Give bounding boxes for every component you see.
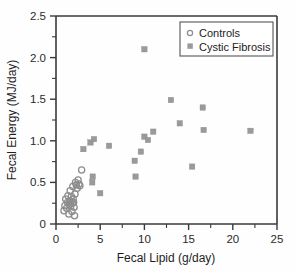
y-axis: 0 0.5 1.0 1.5 2.0 2.5 Fecal Energy (MJ/d… — [5, 10, 56, 230]
data-point — [142, 47, 147, 52]
data-point — [201, 127, 206, 132]
legend-label-cystic-fibrosis: Cystic Fibrosis — [199, 41, 271, 53]
data-point — [133, 174, 138, 179]
legend-label-controls: Controls — [199, 27, 240, 39]
y-tick-label-3: 1.5 — [30, 93, 46, 105]
legend: Controls Cystic Fibrosis — [180, 22, 273, 56]
y-tick-label-0: 0 — [40, 218, 46, 230]
y-tick-label-4: 2.0 — [30, 52, 46, 64]
chart-canvas: 0 0.5 1.0 1.5 2.0 2.5 Fecal Energy (MJ/d… — [0, 0, 295, 272]
data-point — [151, 129, 156, 134]
x-tick-label-2: 10 — [138, 233, 151, 245]
data-point — [79, 167, 85, 173]
y-tick-label-2: 1.0 — [30, 135, 46, 147]
data-point — [106, 143, 111, 148]
series-controls-points — [61, 167, 85, 219]
data-point — [90, 180, 95, 185]
data-point — [132, 158, 137, 163]
x-tick-label-1: 5 — [97, 233, 103, 245]
scatter-plot-figure: 0 0.5 1.0 1.5 2.0 2.5 Fecal Energy (MJ/d… — [0, 0, 295, 272]
data-point — [138, 149, 143, 154]
data-point — [189, 164, 194, 169]
y-axis-title: Fecal Energy (MJ/day) — [5, 60, 19, 181]
x-tick-label-3: 15 — [182, 233, 195, 245]
legend-marker-filled-square-icon — [187, 43, 192, 48]
data-point — [91, 136, 96, 141]
x-axis: 0 5 10 15 20 25 Fecal Lipid (g/day) — [53, 224, 284, 265]
data-point — [90, 174, 95, 179]
y-tick-label-5: 2.5 — [30, 10, 46, 22]
data-point — [145, 137, 150, 142]
data-point — [81, 146, 86, 151]
data-point — [248, 128, 253, 133]
data-point — [200, 105, 205, 110]
data-point — [98, 191, 103, 196]
x-tick-label-0: 0 — [53, 233, 59, 245]
x-axis-title: Fecal Lipid (g/day) — [117, 251, 216, 265]
x-tick-label-5: 25 — [271, 233, 284, 245]
data-point — [168, 97, 173, 102]
x-tick-label-4: 20 — [226, 233, 239, 245]
data-point — [177, 121, 182, 126]
y-tick-label-1: 0.5 — [30, 176, 46, 188]
series-cystic-fibrosis-points — [81, 47, 253, 196]
